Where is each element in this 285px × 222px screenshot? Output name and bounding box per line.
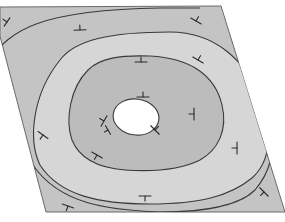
contour-diagram bbox=[0, 0, 285, 222]
